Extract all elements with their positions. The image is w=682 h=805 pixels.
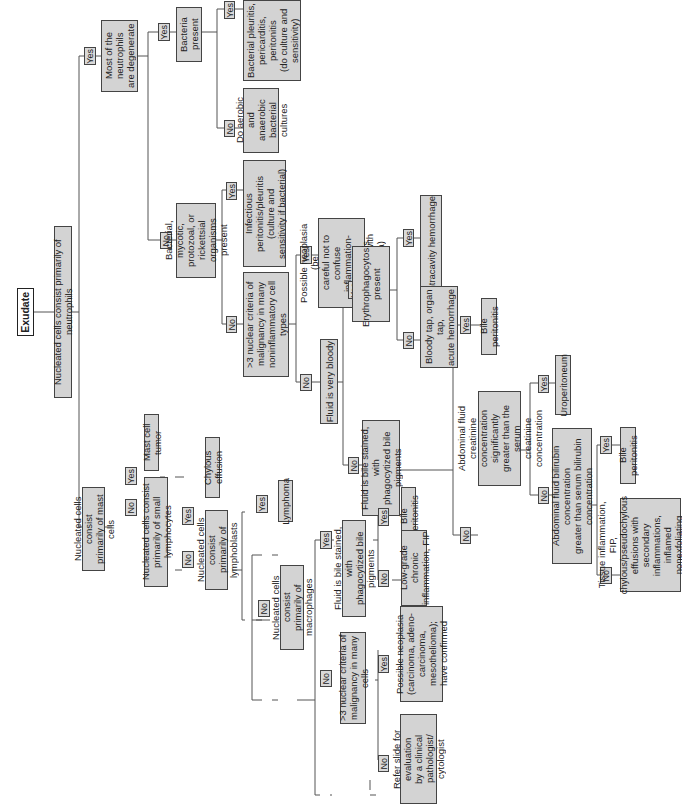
node-bile-stained-2: Fluid is bile stained, with phagocytized… (342, 520, 366, 617)
node-intracavity-hemorrhage: Intracavity hemorrhage (420, 195, 442, 295)
node-uroperitoneum: Uroperitoneum (555, 355, 571, 415)
label-no: No (403, 332, 414, 349)
label-no: No (320, 670, 332, 687)
node-criteria-noninflammatory: >3 nuclear criteria of malignancy in man… (243, 272, 289, 377)
label-yes: Yes (460, 316, 471, 334)
node-bacterial-pleuritis: Bacterial pleuritis, pericarditis, perit… (243, 0, 301, 81)
label-yes: Yes (538, 375, 549, 393)
label-yes: Yes (158, 23, 170, 41)
label-no: No (182, 551, 194, 568)
node-creatinine: Abdominal fluid creatinine concentration… (478, 391, 521, 486)
node-chylous-effusion: Chylous effusion (205, 437, 220, 498)
node-mast-cells: Nucleated cells consist primarily of mas… (82, 487, 105, 571)
label-no: No (378, 755, 389, 772)
label-yes: Yes (600, 436, 612, 454)
node-bile-peritonitis-2: Bile peritonitis (620, 427, 636, 484)
label-no: No (125, 499, 137, 516)
node-bile-peritonitis-1: Bile peritonitis (481, 298, 497, 355)
node-mast-cell-tumor: Mast cell tumor (144, 414, 159, 471)
label-no: No (538, 487, 549, 504)
node-aerobic-cultures: Do aerobic and anaerobic bacterial cultu… (243, 88, 279, 153)
label-no: No (460, 527, 471, 544)
label-yes: Yes (378, 655, 389, 673)
label-yes: Yes (256, 495, 268, 513)
node-criteria-many-cells: >3 nuclear criteria of malignancy in man… (340, 632, 366, 724)
node-very-bloody: Fluid is very bloody (320, 339, 338, 424)
label-no: No (378, 570, 389, 587)
node-refer-slide: Refer slide for evaluation by a clinical… (400, 714, 437, 804)
label-yes: Yes (224, 1, 235, 19)
label-yes: Yes (125, 467, 137, 485)
node-organisms: Bacterial, mycotic, protozoal, or ricket… (176, 203, 216, 278)
label-yes: Yes (320, 531, 332, 549)
node-possible-neoplasia-confirmed: Possible neoplasia (carcinoma, adeno- ca… (400, 606, 443, 702)
node-small-lymphocytes: Nucleated cells consist primarily of sma… (144, 477, 168, 587)
label-yes: Yes (84, 47, 96, 65)
node-degenerate: Most of the neutrophils are degenerate (101, 20, 138, 92)
node-erythrophagocytosis: Erythrophagocytosis present (352, 246, 390, 322)
node-exudate: Exudate (17, 288, 34, 336)
label-yes: Yes (403, 229, 414, 247)
label-yes: Yes (378, 508, 389, 526)
label-no: No (300, 374, 312, 391)
node-neutrophils: Nucleated cells consist primarily of neu… (54, 226, 72, 398)
node-bile-stained-1: Fluid is bile stained, with phagocytized… (362, 420, 400, 516)
node-lymphoma: Lymphoma (278, 480, 293, 522)
node-macrophages: Nucleated cells consist primarily of mac… (280, 565, 304, 650)
node-bilirubin: Abdominal fluid bilirubin concentration … (552, 428, 592, 564)
label-no: No (258, 600, 270, 617)
node-tissue-inflammation: Tissue inflammation, FIP, chylous/pseudo… (620, 498, 681, 592)
label-yes: Yes (182, 507, 194, 525)
label-yes: Yes (226, 182, 237, 200)
label-no: No (348, 457, 359, 474)
node-bloody-tap: Bloody tap, organ tap, acute hemorrhage (420, 286, 458, 368)
node-low-grade-inflammation: Low-grade chronic inflammation, FIP (401, 530, 427, 606)
node-bacteria: Bacteria present (176, 7, 202, 62)
label-no: No (226, 316, 237, 333)
node-lymphoblasts: Nucleated cells consist primarily of lym… (205, 510, 228, 590)
flowchart-canvas: Exudate Nucleated cells consist primaril… (0, 0, 682, 805)
node-infectious: Infectious peritonitis/pleuritis (cultur… (243, 160, 286, 267)
